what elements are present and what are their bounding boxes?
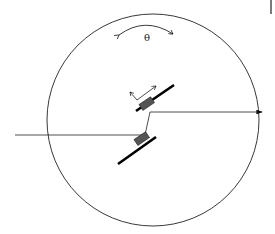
upper-mirror-mount [139,97,155,111]
diagram-canvas: θ [0,0,275,234]
angle-label: θ [144,32,150,43]
axis-arrow-icon [130,92,137,100]
rotation-stage-circle [47,14,259,226]
